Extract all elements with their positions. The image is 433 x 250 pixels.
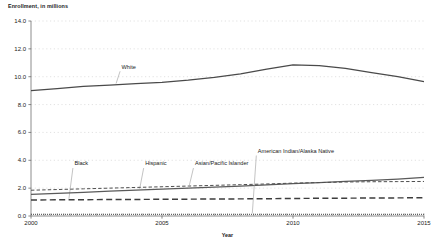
series-label-white: White — [122, 64, 136, 70]
y-tick-label: 10.0 — [4, 74, 26, 80]
y-tick-label: 8.0 — [4, 102, 26, 108]
leader-line — [189, 168, 193, 185]
series-label-black: Black — [74, 160, 88, 166]
series-label-asian-pacific-islander: Asian/Pacific Islander — [195, 160, 248, 166]
leader-line — [116, 71, 120, 83]
y-tick-label: 6.0 — [4, 129, 26, 135]
y-tick-label: 12.0 — [4, 46, 26, 52]
plot-canvas — [0, 0, 433, 250]
series-line-white — [31, 65, 424, 91]
x-tick-label: 2015 — [409, 220, 433, 226]
series-line-black — [31, 198, 424, 200]
y-tick-label: 14.0 — [4, 18, 26, 24]
y-tick-label: 2.0 — [4, 185, 26, 191]
leader-line — [69, 168, 73, 199]
enrollment-line-chart: Enrollment, in millions WhiteBlackHispan… — [0, 0, 433, 250]
series-line-asian-pacific-islander — [31, 181, 424, 190]
series-line-hispanic — [31, 177, 424, 194]
y-tick-label: 4.0 — [4, 157, 26, 163]
leader-line — [140, 168, 144, 189]
x-tick-label: 2000 — [16, 220, 46, 226]
series-label-american-indian-alaska-native: American Indian/Alaska Native — [258, 148, 334, 154]
y-tick-label: 0.0 — [4, 213, 26, 219]
series-label-hispanic: Hispanic — [145, 160, 166, 166]
x-tick-label: 2010 — [278, 220, 308, 226]
x-axis-title: Year — [208, 232, 248, 238]
x-tick-label: 2005 — [147, 220, 177, 226]
